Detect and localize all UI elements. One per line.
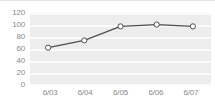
y-axis-tick-label: 100 [12, 21, 25, 29]
y-axis-tick-label: 20 [17, 69, 26, 77]
x-axis: 6/03 6/04 6/05 6/06 6/07 [30, 88, 211, 100]
x-axis-tick-label: 6/03 [43, 88, 58, 97]
x-axis-tick-label: 6/05 [113, 88, 128, 97]
x-axis-tick-label: 6/06 [148, 88, 163, 97]
data-series [30, 13, 211, 86]
plot-area [30, 13, 211, 86]
line-chart: 120 100 80 60 40 20 0 6/03 6/04 6/05 6/0… [0, 0, 215, 101]
y-axis-tick-label: 120 [12, 9, 25, 17]
y-axis-tick-label: 0 [21, 81, 25, 89]
data-point-marker[interactable] [46, 45, 51, 50]
y-axis-tick-label: 40 [17, 57, 26, 65]
y-axis: 120 100 80 60 40 20 0 [0, 0, 28, 101]
data-point-marker[interactable] [154, 22, 159, 27]
top-edge-divider [0, 0, 215, 1]
x-axis-tick-label: 6/04 [78, 88, 93, 97]
data-point-marker[interactable] [118, 24, 123, 29]
y-axis-tick-label: 80 [17, 33, 26, 41]
data-point-marker[interactable] [190, 24, 195, 29]
x-axis-tick-label: 6/07 [184, 88, 199, 97]
y-axis-tick-label: 60 [17, 45, 26, 53]
data-point-marker[interactable] [82, 38, 87, 43]
